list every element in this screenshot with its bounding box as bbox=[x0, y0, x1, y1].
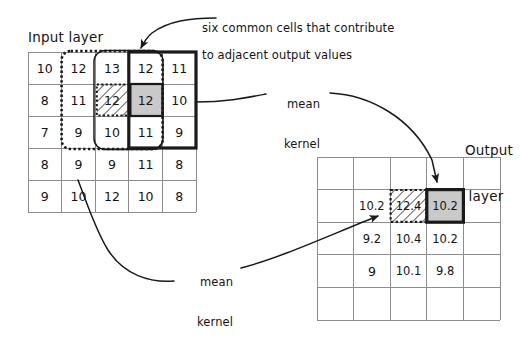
output-cell-hatched bbox=[390, 190, 427, 223]
mean-kernel-bottom-line2: kernel bbox=[185, 316, 233, 329]
input-layer-title: Input layer bbox=[28, 30, 103, 46]
input-grid bbox=[28, 51, 196, 213]
mean-kernel-top-label: mean kernel bbox=[272, 85, 320, 178]
input-cell-gray bbox=[130, 84, 164, 116]
mean-kernel-bottom-line1: mean bbox=[200, 275, 233, 289]
output-title-line1: Output bbox=[465, 142, 513, 158]
output-layer-title: Output layer bbox=[447, 127, 513, 236]
output-title-line2: layer bbox=[447, 189, 513, 205]
input-cell-hatched bbox=[97, 84, 131, 116]
mean-kernel-top-line1: mean bbox=[287, 97, 320, 111]
mean-kernel-top-left-leader bbox=[196, 94, 266, 102]
caption-line2: to adjacent output values bbox=[202, 48, 352, 62]
mean-kernel-bottom-label: mean kernel bbox=[185, 263, 233, 353]
diagram-canvas: Input layer Output layer six common cell… bbox=[0, 0, 521, 353]
mean-kernel-top-line2: kernel bbox=[272, 138, 320, 151]
caption-line1: six common cells that contribute bbox=[202, 21, 394, 35]
caption-annotation: six common cells that contribute to adja… bbox=[187, 9, 394, 75]
